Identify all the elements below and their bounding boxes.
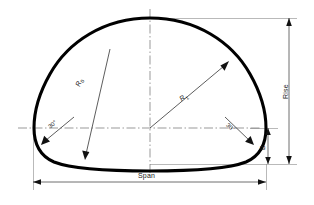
arch-drawing-svg	[0, 0, 314, 205]
angle-left-line	[45, 117, 74, 141]
span-label: Span	[138, 172, 155, 179]
b-arrow-bottom	[265, 157, 271, 164]
rise-arrow-top	[286, 18, 292, 26]
angle-left-leader	[45, 117, 74, 141]
extension-lines	[33, 18, 297, 190]
radius-right-arrowhead	[220, 61, 229, 71]
radius-left-arrowhead	[82, 151, 89, 160]
radius-left-line	[86, 49, 110, 154]
span-arrow-right	[258, 179, 266, 185]
b-label: B	[259, 145, 266, 150]
span-arrow-left	[33, 179, 41, 185]
center-lines	[18, 9, 262, 176]
angle-left-arrowhead	[41, 136, 50, 145]
rise-arrow-bottom	[286, 156, 292, 164]
radius-left-leader	[86, 49, 110, 154]
diagram-canvas: Span Rise B R0 R1 30° 30°	[0, 0, 314, 205]
rise-label: Rise	[282, 84, 289, 99]
